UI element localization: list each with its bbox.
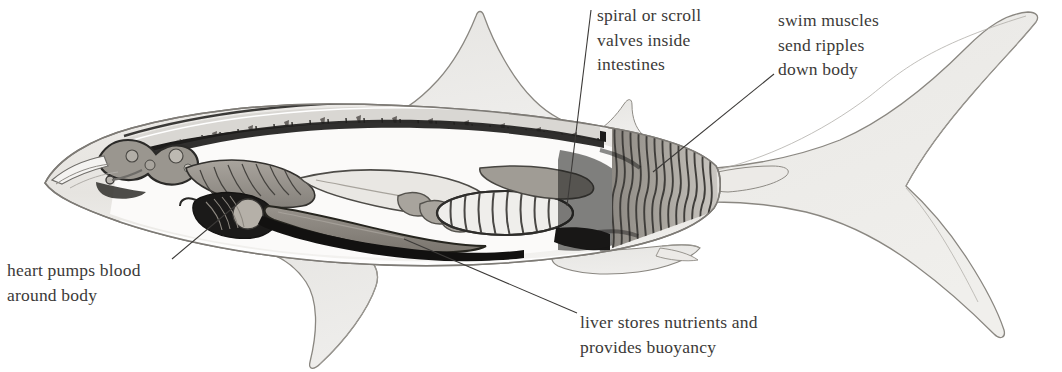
callout-heart: heart pumps blood around body [7,258,141,307]
leader-swim-muscles [653,74,774,172]
callout-spiral-valve: spiral or scroll valves inside intestine… [597,3,701,77]
callout-swim-muscles: swim muscles send ripples down body [778,8,879,82]
figure-page: spiral or scroll valves inside intestine… [0,0,1062,372]
callout-liver: liver stores nutrients and provides buoy… [580,310,758,359]
shark-anatomy-illustration [0,0,1062,372]
